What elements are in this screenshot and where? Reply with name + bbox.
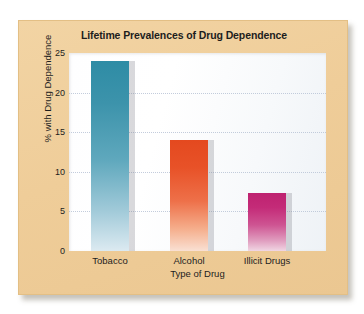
y-axis-tick-labels: 25 20 15 10 5 0 [41, 53, 65, 251]
y-tick-0: 0 [43, 246, 65, 256]
x-axis-title: Type of Drug [69, 268, 326, 279]
x-tick-tobacco: Tobacco [69, 255, 151, 266]
y-tick-20: 20 [43, 88, 65, 98]
y-tick-10: 10 [43, 167, 65, 177]
bar-illicit-drugs[interactable] [248, 193, 286, 251]
y-tick-15: 15 [43, 127, 65, 137]
figure-caption [10, 305, 150, 314]
bar-tobacco-fill [91, 61, 129, 251]
bar-tobacco[interactable] [91, 61, 129, 251]
bar-alcohol-fill [170, 140, 208, 251]
y-tick-25: 25 [43, 48, 65, 58]
chart-title: Lifetime Prevalences of Drug Dependence [19, 29, 349, 41]
plot-area [69, 53, 326, 251]
bar-illicit-drugs-fill [248, 193, 286, 251]
x-tick-illicit-drugs: Illicit Drugs [226, 255, 308, 266]
bar-alcohol[interactable] [170, 140, 208, 251]
y-tick-5: 5 [43, 206, 65, 216]
x-tick-alcohol: Alcohol [148, 255, 230, 266]
figure-card: Lifetime Prevalences of Drug Dependence … [18, 20, 348, 295]
